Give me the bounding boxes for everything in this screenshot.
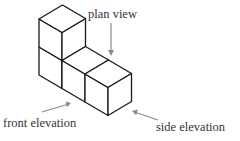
- front-elevation-arrow: [42, 102, 71, 112]
- plan-view-arrow: [108, 23, 114, 56]
- front-elevation-label: front elevation: [3, 116, 77, 130]
- cube-diagram: plan view front elevation side elevation: [0, 0, 240, 141]
- arrow-head-down-icon: [108, 50, 114, 56]
- arrow-head-up-left-icon: [132, 110, 138, 116]
- side-elevation-arrow: [132, 110, 158, 120]
- side-elevation-label: side elevation: [156, 120, 226, 134]
- plan-view-label: plan view: [88, 7, 137, 21]
- arrow-head-up-right-icon: [66, 102, 71, 108]
